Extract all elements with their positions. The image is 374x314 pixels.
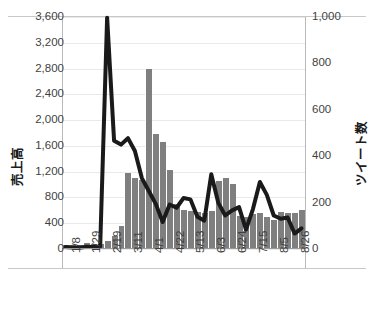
left-axis-tick-label: 400	[45, 217, 64, 228]
left-axis-tick-label: 3,200	[35, 37, 64, 48]
right-axis-tick-label: 400	[312, 150, 331, 161]
left-axis-tick-label: 2,400	[35, 88, 64, 99]
left-axis-tick-label: 2,000	[35, 114, 64, 125]
right-axis-tick-label: 800	[312, 57, 331, 68]
x-axis-tick-label: 1/29	[91, 231, 102, 253]
x-axis-tick-label: 3/11	[133, 231, 144, 253]
left-axis-tick-label: 800	[45, 191, 64, 202]
right-axis-title: ツイート数	[356, 121, 369, 186]
left-axis-tick-label: 2,800	[35, 63, 64, 74]
left-axis-title: 売上高	[12, 147, 25, 186]
x-axis-tick-label: 1/8	[71, 237, 82, 253]
x-axis-tick-label: 7/15	[258, 231, 269, 253]
plot-area	[62, 17, 305, 249]
line-series-sales	[62, 17, 305, 249]
x-axis-tick-label: 4/22	[175, 231, 186, 253]
left-axis-tick-label: 1,200	[35, 166, 64, 177]
left-axis-tick-label: 0	[58, 243, 64, 254]
x-axis-tick-label: 2/19	[112, 231, 123, 253]
chart-container: 04008001,2001,6002,0002,4002,8003,2003,6…	[0, 0, 374, 314]
x-axis-tick-label: 5/13	[195, 231, 206, 253]
right-axis-tick-label: 1,000	[312, 11, 341, 22]
right-axis-tick-label: 200	[312, 197, 331, 208]
right-axis-tick-label: 600	[312, 104, 331, 115]
right-axis-tick-label: 0	[312, 243, 318, 254]
x-axis-tick-label: 8/5	[279, 237, 290, 253]
left-axis-tick-label: 1,600	[35, 140, 64, 151]
x-axis-tick-label: 6/3	[216, 237, 227, 253]
x-axis-tick-label: 8/26	[300, 231, 311, 253]
left-axis-tick-label: 3,600	[35, 11, 64, 22]
x-axis-tick-label: 6/24	[237, 231, 248, 253]
x-axis-tick-label: 4/1	[154, 237, 165, 253]
